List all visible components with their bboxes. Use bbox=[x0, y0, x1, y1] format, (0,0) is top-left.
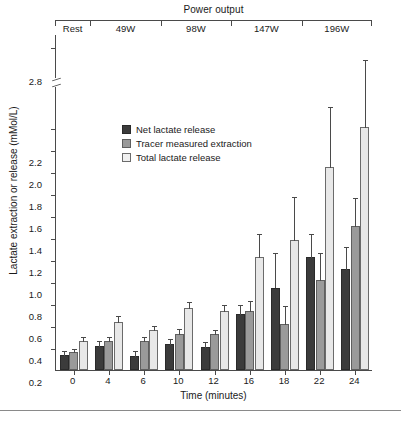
y-tick-label: 0.2 bbox=[29, 377, 42, 388]
x-tick-label: 18 bbox=[271, 375, 297, 386]
error-bar-cap bbox=[168, 339, 173, 340]
error-bar-cap bbox=[152, 326, 157, 327]
y-tick-mark bbox=[51, 129, 56, 130]
bar bbox=[360, 127, 369, 370]
x-axis-title: Time (minutes) bbox=[55, 390, 372, 401]
bar bbox=[245, 311, 254, 370]
x-tick-label: 6 bbox=[130, 375, 156, 386]
legend-label: Tracer measured extraction bbox=[136, 137, 252, 150]
bar bbox=[149, 330, 158, 370]
x-tick-label: 16 bbox=[236, 375, 262, 386]
y-tick-label: 0.8 bbox=[29, 311, 42, 322]
bar bbox=[130, 356, 139, 370]
error-bar-cap bbox=[213, 330, 218, 331]
y-tick-label: 2.0 bbox=[29, 179, 42, 190]
power-stage-49w: 49W bbox=[90, 21, 160, 36]
error-bar-cap bbox=[187, 302, 192, 303]
power-strip-end-tick bbox=[371, 21, 372, 26]
error-bar-cap bbox=[203, 342, 208, 343]
error-bar bbox=[346, 247, 347, 270]
error-bar-cap bbox=[328, 107, 333, 108]
error-bar-cap bbox=[222, 305, 227, 306]
bar bbox=[236, 314, 245, 370]
y-tick-label: 2.2 bbox=[29, 157, 42, 168]
bar bbox=[201, 347, 210, 370]
bar bbox=[60, 355, 69, 370]
error-bar-cap bbox=[248, 301, 253, 302]
error-bar-cap bbox=[292, 197, 297, 198]
legend-label: Total lactate release bbox=[136, 151, 221, 164]
bar bbox=[341, 269, 350, 370]
bar bbox=[184, 308, 193, 370]
bar bbox=[210, 334, 219, 370]
bar bbox=[325, 167, 334, 371]
x-tick-label: 0 bbox=[60, 375, 86, 386]
bar bbox=[140, 341, 149, 370]
legend-swatch-icon bbox=[122, 153, 131, 162]
x-tick-label: 12 bbox=[201, 375, 227, 386]
bar bbox=[220, 311, 229, 370]
y-tick-label: 1.2 bbox=[29, 267, 42, 278]
error-bar-cap bbox=[62, 351, 67, 352]
y-tick-mark bbox=[51, 349, 56, 350]
legend-swatch-icon bbox=[122, 139, 131, 148]
bar bbox=[316, 280, 325, 370]
x-tick-label: 10 bbox=[165, 375, 191, 386]
y-tick-mark bbox=[51, 217, 56, 218]
bar bbox=[175, 334, 184, 370]
y-axis-labels: 0.20.40.60.81.01.21.41.61.82.02.22.8 bbox=[0, 35, 50, 371]
error-bar-cap bbox=[97, 341, 102, 342]
bar bbox=[351, 226, 360, 370]
footer-divider bbox=[0, 410, 401, 411]
error-bar bbox=[355, 198, 356, 227]
error-bar-cap bbox=[318, 253, 323, 254]
bar bbox=[280, 324, 289, 370]
error-bar bbox=[259, 234, 260, 258]
error-bar-cap bbox=[238, 305, 243, 306]
y-tick-mark bbox=[51, 173, 56, 174]
error-bar-cap bbox=[309, 234, 314, 235]
y-tick-mark bbox=[51, 327, 56, 328]
power-stage-196w: 196W bbox=[302, 21, 372, 36]
error-bar bbox=[285, 306, 286, 325]
bar bbox=[104, 341, 113, 370]
error-bar-cap bbox=[142, 337, 147, 338]
error-bar-cap bbox=[116, 316, 121, 317]
error-bar-cap bbox=[257, 234, 262, 235]
error-bar-cap bbox=[344, 247, 349, 248]
error-bar bbox=[250, 301, 251, 312]
legend-label: Net lactate release bbox=[136, 123, 215, 136]
power-stage-rest: Rest bbox=[55, 21, 90, 36]
y-tick-label: 0.6 bbox=[29, 333, 42, 344]
error-bar bbox=[330, 107, 331, 168]
y-tick-mark bbox=[51, 305, 56, 306]
figure-canvas: Power output Rest49W98W147W196W Lactate … bbox=[0, 0, 401, 423]
x-tick-label: 22 bbox=[306, 375, 332, 386]
error-bar-cap bbox=[273, 253, 278, 254]
error-bar-cap bbox=[353, 198, 358, 199]
bar bbox=[165, 344, 174, 370]
power-strip-end-tick bbox=[55, 21, 56, 26]
error-bar-cap bbox=[81, 337, 86, 338]
y-tick-label: 1.8 bbox=[29, 201, 42, 212]
error-bar-cap bbox=[133, 351, 138, 352]
error-bar bbox=[365, 60, 366, 128]
bar bbox=[69, 352, 78, 370]
error-bar-cap bbox=[177, 329, 182, 330]
y-tick-label: 1.6 bbox=[29, 223, 42, 234]
bar bbox=[114, 322, 123, 370]
power-stage-98w: 98W bbox=[161, 21, 231, 36]
error-bar-cap bbox=[283, 306, 288, 307]
y-tick-label: 1.4 bbox=[29, 245, 42, 256]
y-tick-mark bbox=[51, 195, 56, 196]
plot-area: Net lactate releaseTracer measured extra… bbox=[55, 35, 372, 371]
bar bbox=[255, 257, 264, 370]
legend-swatch-icon bbox=[122, 125, 131, 134]
bar bbox=[290, 240, 299, 370]
error-bar-cap bbox=[72, 349, 77, 350]
error-bar-cap bbox=[363, 60, 368, 61]
bar bbox=[306, 257, 315, 370]
power-stage-147w: 147W bbox=[231, 21, 301, 36]
error-bar bbox=[189, 302, 190, 310]
power-output-title: Power output bbox=[55, 4, 372, 15]
